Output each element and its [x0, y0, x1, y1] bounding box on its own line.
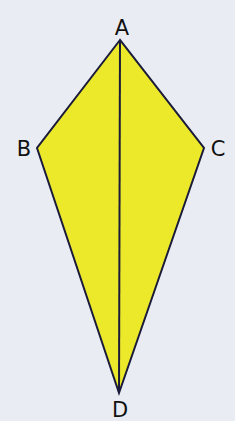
diagonal-ad — [119, 40, 120, 393]
vertex-label-a: A — [115, 18, 129, 39]
kite-diagram: A B C D — [0, 0, 235, 421]
vertex-label-d: D — [112, 400, 128, 421]
kite-figure — [0, 0, 235, 421]
vertex-label-b: B — [17, 139, 31, 160]
vertex-label-c: C — [211, 139, 226, 160]
